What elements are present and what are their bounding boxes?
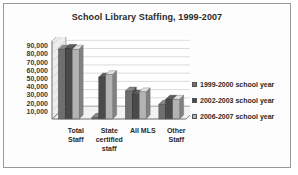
x-axis: Total StaffState certified staffAll MLSO… bbox=[48, 126, 198, 170]
legend: 1999-2000 school year2002-2003 school ye… bbox=[192, 76, 296, 124]
y-axis-tick-label: 70,000 bbox=[27, 58, 48, 65]
x-axis-category-label: Other Staff bbox=[160, 126, 194, 144]
y-axis-tick-label: 30,000 bbox=[27, 91, 48, 98]
bar bbox=[139, 92, 146, 119]
x-axis-category-label: All MLS bbox=[126, 126, 160, 135]
plot-area bbox=[48, 37, 190, 123]
y-axis-tick-label: 50,000 bbox=[27, 74, 48, 81]
bar bbox=[58, 49, 65, 119]
bar bbox=[106, 75, 113, 119]
legend-item[interactable]: 1999-2000 school year bbox=[192, 76, 296, 92]
y-axis-tick-label: 10,000 bbox=[27, 107, 48, 114]
y-axis-tick-label: 60,000 bbox=[27, 66, 48, 73]
chart-frame: School Library Staffing, 1999-2007 90,00… bbox=[3, 3, 291, 168]
legend-label: 2002-2003 school year bbox=[200, 97, 274, 104]
y-axis-tick-label: 90,000 bbox=[27, 42, 48, 49]
legend-item[interactable]: 2006-2007 school year bbox=[192, 108, 296, 124]
bar bbox=[173, 99, 180, 119]
legend-label: 2006-2007 school year bbox=[200, 113, 274, 120]
bar bbox=[65, 48, 72, 119]
y-axis-tick-label: 80,000 bbox=[27, 50, 48, 57]
bar bbox=[132, 94, 139, 119]
x-axis-category-label: Total Staff bbox=[59, 126, 93, 144]
y-axis: 90,00080,00070,00060,00050,00040,00030,0… bbox=[10, 34, 48, 118]
bar bbox=[166, 99, 173, 119]
legend-swatch-icon bbox=[192, 82, 197, 87]
bar bbox=[125, 91, 132, 119]
x-axis-category-label: State certified staff bbox=[93, 126, 127, 153]
legend-item[interactable]: 2002-2003 school year bbox=[192, 92, 296, 108]
y-axis-tick-label: 40,000 bbox=[27, 83, 48, 90]
bar-chart-svg bbox=[48, 37, 190, 123]
legend-label: 1999-2000 school year bbox=[200, 81, 274, 88]
bar bbox=[72, 49, 79, 119]
y-axis-tick-label: 20,000 bbox=[27, 99, 48, 106]
legend-swatch-icon bbox=[192, 98, 197, 103]
legend-swatch-icon bbox=[192, 114, 197, 119]
bar bbox=[99, 77, 106, 119]
bar bbox=[159, 104, 166, 119]
chart-title: School Library Staffing, 1999-2007 bbox=[4, 12, 290, 22]
